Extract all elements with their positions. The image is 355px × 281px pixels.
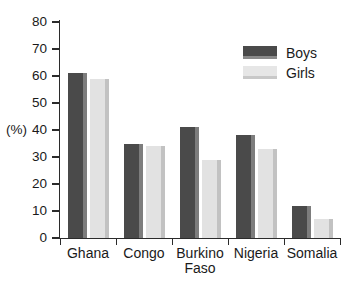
legend-swatch-face (243, 66, 277, 76)
y-axis-tick-label: 0 (0, 231, 47, 245)
y-axis-tick-label: 30 (0, 150, 47, 164)
bar-group (68, 22, 109, 238)
bar-face (292, 206, 307, 238)
legend-item-girls: Girls (243, 64, 317, 81)
bar-group (124, 22, 165, 238)
bar-face (236, 135, 251, 238)
bar-face (146, 146, 161, 238)
x-axis-tick (228, 239, 229, 245)
bar-group (180, 22, 221, 238)
y-axis-tick-label: 60 (0, 69, 47, 83)
legend-swatch-edge (243, 76, 277, 79)
x-axis-tick (116, 239, 117, 245)
bar-chart: (%) 80706050403020100 GhanaCongoBurkino … (0, 0, 355, 281)
y-axis-tick-label: 20 (0, 177, 47, 191)
bar-edge (329, 219, 333, 238)
y-axis-tick (52, 183, 59, 184)
bar-girls-somalia (314, 219, 333, 238)
y-axis-tick (52, 21, 59, 22)
bar-boys-ghana (68, 73, 87, 238)
y-axis-tick-label: 10 (0, 204, 47, 218)
y-axis-tick (52, 129, 59, 130)
bar-edge (83, 73, 87, 238)
bar-boys-somalia (292, 206, 311, 238)
legend-swatch-face (243, 46, 277, 56)
bar-face (90, 79, 105, 238)
bar-face (180, 127, 195, 238)
y-axis-tick-label: 70 (0, 42, 47, 56)
legend-label: Boys (286, 46, 317, 60)
bar-face (124, 144, 139, 239)
bar-edge (217, 160, 221, 238)
bar-edge (251, 135, 255, 238)
bar-edge (161, 146, 165, 238)
y-axis-tick (52, 210, 59, 211)
bar-girls-nigeria (258, 149, 277, 238)
bar-edge (307, 206, 311, 238)
bar-edge (195, 127, 199, 238)
legend-item-boys: Boys (243, 44, 317, 61)
bar-edge (105, 79, 109, 238)
y-axis-tick (52, 48, 59, 49)
y-axis-tick-label: 50 (0, 96, 47, 110)
bar-boys-congo (124, 144, 143, 239)
bar-boys-nigeria (236, 135, 255, 238)
x-axis-category-label: Somalia (278, 246, 346, 261)
y-axis-tick-label: 80 (0, 15, 47, 29)
y-axis-tick (52, 156, 59, 157)
bar-edge (273, 149, 277, 238)
x-axis-tick (172, 239, 173, 245)
bar-girls-congo (146, 146, 165, 238)
y-axis-tick-label: 40 (0, 123, 47, 137)
bar-edge (139, 144, 143, 239)
bar-face (202, 160, 217, 238)
bar-face (68, 73, 83, 238)
bar-face (314, 219, 329, 238)
bar-face (258, 149, 273, 238)
x-axis-tick (284, 239, 285, 245)
bar-girls-burkino-faso (202, 160, 221, 238)
legend-swatch-edge (243, 56, 277, 59)
chart-legend: BoysGirls (243, 44, 317, 84)
bar-girls-ghana (90, 79, 109, 238)
y-axis-tick (52, 75, 59, 76)
legend-swatch-girls (243, 66, 277, 79)
x-axis-tick (340, 239, 341, 245)
y-axis-tick (52, 102, 59, 103)
x-axis-tick (60, 239, 61, 245)
y-axis-tick (52, 237, 59, 238)
legend-label: Girls (286, 66, 315, 80)
legend-swatch-boys (243, 46, 277, 59)
bar-boys-burkino-faso (180, 127, 199, 238)
